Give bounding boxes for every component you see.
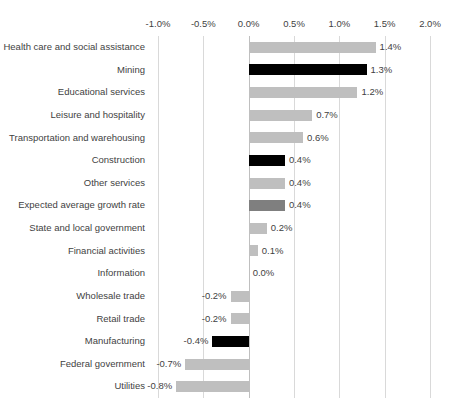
bar — [249, 64, 367, 75]
bar — [185, 359, 248, 370]
chart-row: Expected average growth rate0.4% — [0, 194, 464, 217]
x-tick-label: 1.5% — [374, 18, 396, 30]
bar — [176, 381, 249, 392]
chart-row: State and local government0.2% — [0, 217, 464, 240]
x-tick-label: 0.0% — [238, 18, 260, 30]
bar-value-label: 0.4% — [289, 172, 311, 195]
x-tick-label: 0.5% — [283, 18, 305, 30]
bar-value-label: 0.4% — [289, 194, 311, 217]
category-label: Expected average growth rate — [18, 194, 145, 217]
bar-value-label: 0.2% — [271, 217, 293, 240]
bar-value-label: -0.2% — [202, 285, 227, 308]
category-label: Construction — [92, 149, 145, 172]
bar-value-label: -0.4% — [184, 330, 209, 353]
category-label: Transportation and warehousing — [9, 127, 145, 150]
bar — [249, 110, 312, 121]
bar-value-label: -0.2% — [202, 308, 227, 331]
category-label: Other services — [84, 172, 145, 195]
bar-value-label: 0.6% — [307, 127, 329, 150]
category-label: Retail trade — [96, 308, 145, 331]
chart-row: Manufacturing-0.4% — [0, 330, 464, 353]
bar — [249, 245, 258, 256]
category-label: State and local government — [29, 217, 145, 240]
bar-value-label: -0.7% — [156, 353, 181, 376]
bar — [249, 178, 285, 189]
chart-row: Health care and social assistance1.4% — [0, 36, 464, 59]
category-label: Leisure and hospitality — [50, 104, 145, 127]
chart-row: Mining1.3% — [0, 59, 464, 82]
x-axis-tick-labels: -1.0%-0.5%0.0%0.5%1.0%1.5%2.0% — [0, 18, 464, 32]
category-label: Federal government — [60, 353, 145, 376]
bar — [231, 313, 249, 324]
chart-row: Federal government-0.7% — [0, 353, 464, 376]
category-label: Information — [97, 262, 145, 285]
category-label: Manufacturing — [85, 330, 145, 353]
bar-chart: -1.0%-0.5%0.0%0.5%1.0%1.5%2.0% Health ca… — [0, 0, 464, 416]
bar-value-label: 1.2% — [361, 81, 383, 104]
chart-row: Educational services1.2% — [0, 81, 464, 104]
category-label: Utilities — [114, 375, 145, 398]
chart-row: Wholesale trade-0.2% — [0, 285, 464, 308]
bar — [231, 291, 249, 302]
category-label: Wholesale trade — [76, 285, 145, 308]
category-label: Health care and social assistance — [3, 36, 145, 59]
bar — [249, 42, 376, 53]
bar-value-label: 0.0% — [253, 262, 275, 285]
chart-row: Utilities-0.8% — [0, 375, 464, 398]
bar-value-label: 0.4% — [289, 149, 311, 172]
category-label: Financial activities — [68, 240, 145, 263]
chart-rows: Health care and social assistance1.4%Min… — [0, 36, 464, 398]
bar — [249, 223, 267, 234]
chart-row: Information0.0% — [0, 262, 464, 285]
bar — [249, 155, 285, 166]
chart-row: Other services0.4% — [0, 172, 464, 195]
x-tick-label: 1.0% — [329, 18, 351, 30]
bar — [249, 87, 358, 98]
bar-value-label: 0.7% — [316, 104, 338, 127]
bar — [249, 200, 285, 211]
category-label: Mining — [117, 59, 145, 82]
bar-value-label: -0.8% — [147, 375, 172, 398]
chart-row: Leisure and hospitality0.7% — [0, 104, 464, 127]
x-tick-label: 2.0% — [419, 18, 441, 30]
x-tick-label: -0.5% — [191, 18, 216, 30]
chart-row: Transportation and warehousing0.6% — [0, 127, 464, 150]
chart-row: Retail trade-0.2% — [0, 308, 464, 331]
bar-value-label: 0.1% — [262, 240, 284, 263]
x-tick-label: -1.0% — [146, 18, 171, 30]
chart-row: Construction0.4% — [0, 149, 464, 172]
bar — [212, 336, 248, 347]
category-label: Educational services — [58, 81, 145, 104]
bar-value-label: 1.3% — [371, 59, 393, 82]
chart-row: Financial activities0.1% — [0, 240, 464, 263]
bar-value-label: 1.4% — [380, 36, 402, 59]
bar — [249, 132, 303, 143]
